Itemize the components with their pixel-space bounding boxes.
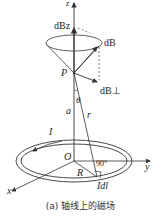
dBz-label: dBz	[54, 21, 70, 31]
Idl-label: Idl	[97, 181, 108, 191]
a-label: a	[66, 106, 71, 116]
current-label: I	[49, 127, 52, 137]
right-angle-label: 90°	[96, 160, 107, 168]
dBz-dashed	[78, 28, 90, 33]
dB-perp-arrow	[74, 73, 97, 82]
dB-perp-label: dB⊥	[100, 86, 121, 96]
point-P-dot	[73, 72, 75, 74]
point-P-label: P	[61, 68, 67, 78]
dB-label: dB	[104, 38, 116, 48]
y-axis-label: y	[145, 162, 149, 172]
r-label: r	[87, 110, 91, 120]
theta-arc	[74, 90, 78, 91]
radius-label: R	[77, 168, 83, 178]
figure-caption: (a) 轴线上的磁场	[0, 199, 161, 212]
z-axis-label: z	[66, 0, 69, 8]
origin-label: O	[64, 152, 71, 162]
x-axis	[12, 161, 74, 191]
magnetic-field-on-axis-diagram	[0, 0, 161, 216]
x-axis-label: x	[7, 186, 11, 196]
theta-label: θ	[76, 96, 80, 105]
